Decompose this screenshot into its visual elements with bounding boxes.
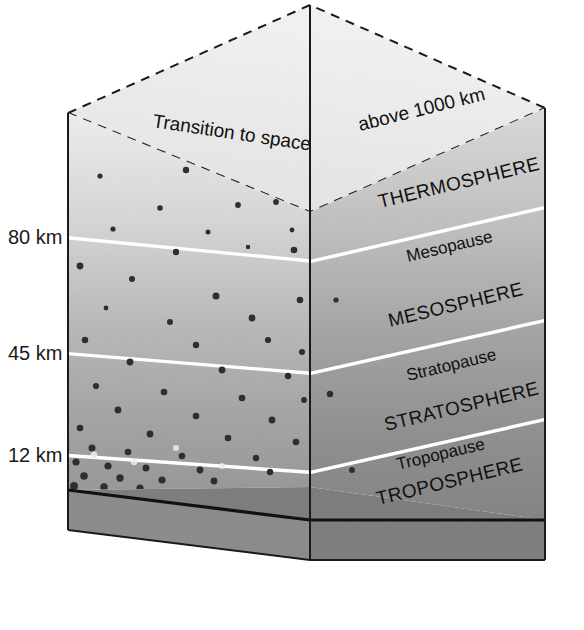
altitude-axis: 80 km 45 km 12 km <box>8 226 62 466</box>
atmosphere-block-figure: 80 km 45 km 12 km Transition to space ab… <box>0 0 584 630</box>
altitude-tick-45km: 45 km <box>8 342 62 364</box>
altitude-tick-80km: 80 km <box>8 226 62 248</box>
ground-slab-right <box>310 520 545 560</box>
atmosphere-diagram: 80 km 45 km 12 km Transition to space ab… <box>0 0 584 630</box>
altitude-tick-12km: 12 km <box>8 444 62 466</box>
